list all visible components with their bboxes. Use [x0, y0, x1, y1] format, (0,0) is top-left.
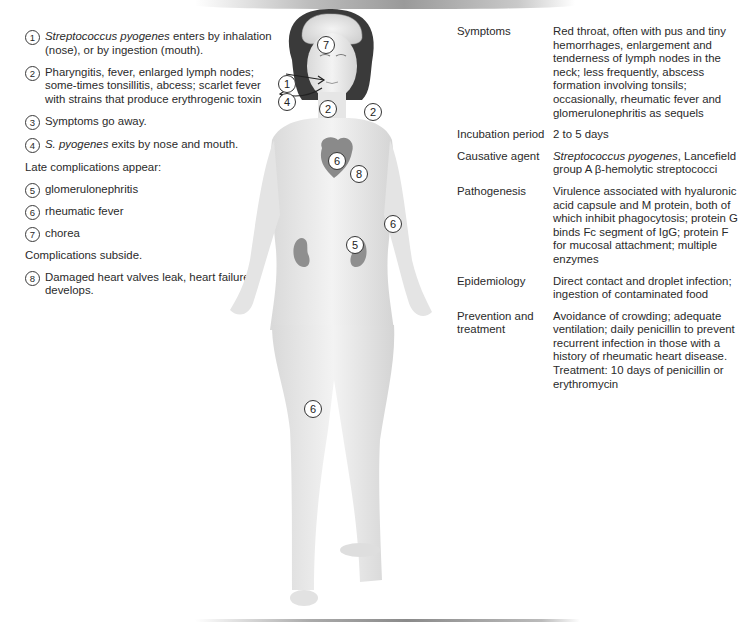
marker-lymph-node: 2	[364, 103, 382, 121]
number-badge: 1	[25, 30, 40, 45]
marker-heart-valves: 8	[350, 165, 368, 183]
info-row-pathogenesis: Pathogenesis Virulence associated with h…	[457, 185, 742, 267]
organism-name: S. pyogenes	[45, 138, 108, 150]
bottom-decorative-bar	[195, 619, 580, 622]
number-badge: 7	[25, 227, 40, 242]
marker-entry: 1	[278, 75, 296, 93]
number-badge: 3	[25, 115, 40, 130]
disease-info-table: Symptoms Red throat, often with pus and …	[457, 25, 742, 399]
body-figure-icon	[210, 0, 460, 623]
marker-kidney: 5	[346, 236, 364, 254]
marker-brain: 7	[317, 36, 335, 54]
marker-heart: 6	[328, 152, 346, 170]
number-badge: 6	[25, 205, 40, 220]
marker-knee: 6	[304, 400, 322, 418]
organism-name: Streptococcus pyogenes	[45, 30, 170, 42]
marker-elbow: 6	[384, 215, 402, 233]
info-row-epidemiology: Epidemiology Direct contact and droplet …	[457, 275, 742, 302]
info-row-causative-agent: Causative agent Streptococcus pyogenes, …	[457, 150, 742, 177]
human-body-illustration: 7 1 4 2 2 6 8 6 5 6	[210, 0, 460, 623]
info-row-symptoms: Symptoms Red throat, often with pus and …	[457, 25, 742, 120]
number-badge: 5	[25, 183, 40, 198]
number-badge: 4	[25, 138, 40, 153]
number-badge: 8	[25, 271, 40, 286]
number-badge: 2	[25, 66, 40, 81]
info-row-incubation: Incubation period 2 to 5 days	[457, 128, 742, 142]
info-row-prevention: Prevention and treatment Avoidance of cr…	[457, 310, 742, 392]
marker-exit: 4	[278, 93, 296, 111]
marker-throat: 2	[319, 100, 337, 118]
